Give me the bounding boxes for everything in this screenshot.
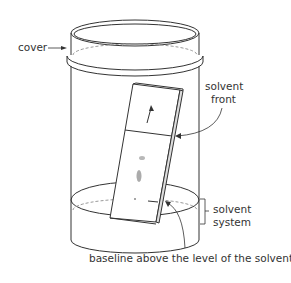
baseline-pointer [167,203,185,248]
cover-label: cover [18,41,47,54]
solvent-front-arrow-icon [175,133,181,139]
cover-arrow-icon [61,46,67,50]
solvent-front-label-line2: front [211,93,236,106]
cover-lid [67,20,203,76]
solvent-system-label-line2: system [213,216,251,229]
solvent-front-label-line1: solvent [205,80,243,93]
chromatography-diagram: cover solvent front solvent system basel… [0,0,291,283]
baseline-label: baseline above the level of the solvent [89,252,291,265]
chromatography-plate [110,83,183,224]
baseline-arrow-icon [165,201,171,207]
solvent-system-label-line1: solvent [213,203,251,216]
solvent-system-bracket [200,199,209,224]
